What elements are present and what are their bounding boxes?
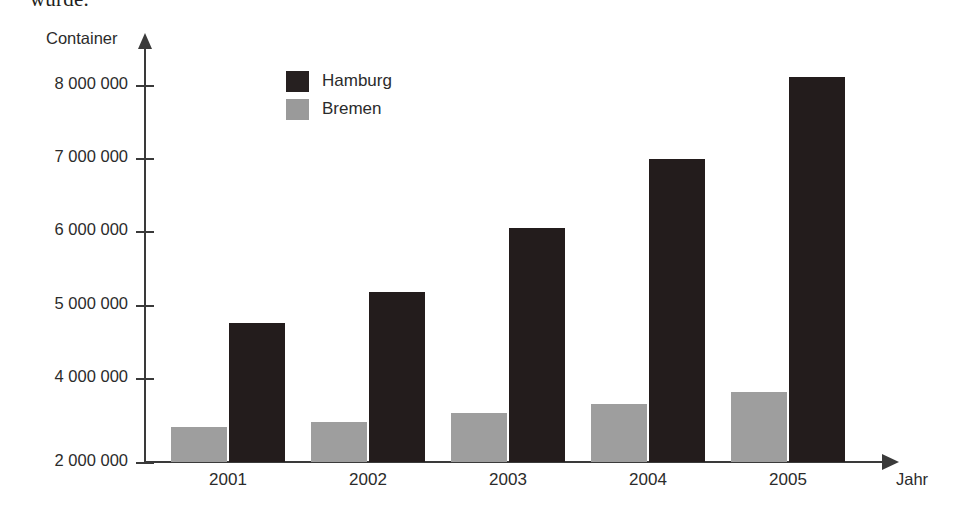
legend-swatch-hamburg-icon: [286, 71, 309, 92]
x-axis-label-2003: 2003: [468, 470, 548, 490]
bar-hamburg-2002: [369, 292, 425, 462]
bar-bremen-2005: [731, 392, 787, 462]
chart-page: wurde. Container Jahr 8 000 0007 000 000…: [0, 0, 953, 511]
y-axis-tick-label: 5 000 000: [8, 294, 128, 313]
y-axis-tick-label: 4 000 000: [8, 367, 128, 386]
y-axis-line: [144, 46, 146, 463]
x-axis-label-2001: 2001: [188, 470, 268, 490]
x-axis-label-2005: 2005: [748, 470, 828, 490]
y-axis-tick-mark: [136, 231, 154, 233]
bar-hamburg-2005: [789, 77, 845, 462]
bar-hamburg-2004: [649, 159, 705, 462]
bar-bremen-2004: [591, 404, 647, 462]
legend-item-bremen: Bremen: [286, 96, 392, 122]
legend-label-hamburg: Hamburg: [322, 71, 392, 91]
y-axis-arrow: [138, 33, 152, 49]
y-axis-tick-label: 8 000 000: [8, 74, 128, 93]
bar-hamburg-2001: [229, 323, 285, 462]
bar-bremen-2001: [171, 427, 227, 462]
y-axis-tick-mark: [136, 85, 154, 87]
bar-bremen-2003: [451, 413, 507, 462]
y-axis-tick-label: 7 000 000: [8, 147, 128, 166]
y-axis-tick-mark: [136, 158, 154, 160]
legend-label-bremen: Bremen: [322, 99, 382, 119]
legend-swatch-bremen-icon: [286, 99, 309, 120]
y-axis-tick-label: 6 000 000: [8, 220, 128, 239]
legend-item-hamburg: Hamburg: [286, 68, 392, 94]
y-axis-tick-mark: [136, 305, 154, 307]
x-axis-label-2002: 2002: [328, 470, 408, 490]
y-axis-tick-label: 2 000 000: [8, 451, 128, 470]
x-axis-label-2004: 2004: [608, 470, 688, 490]
bar-bremen-2002: [311, 422, 367, 462]
plot-area: 8 000 0007 000 0006 000 0005 000 0004 00…: [0, 0, 953, 511]
y-axis-tick-mark: [136, 462, 154, 464]
y-axis-tick-mark: [136, 378, 154, 380]
x-axis-arrow: [882, 454, 899, 470]
bar-hamburg-2003: [509, 228, 565, 462]
chart-legend: Hamburg Bremen: [286, 68, 392, 124]
